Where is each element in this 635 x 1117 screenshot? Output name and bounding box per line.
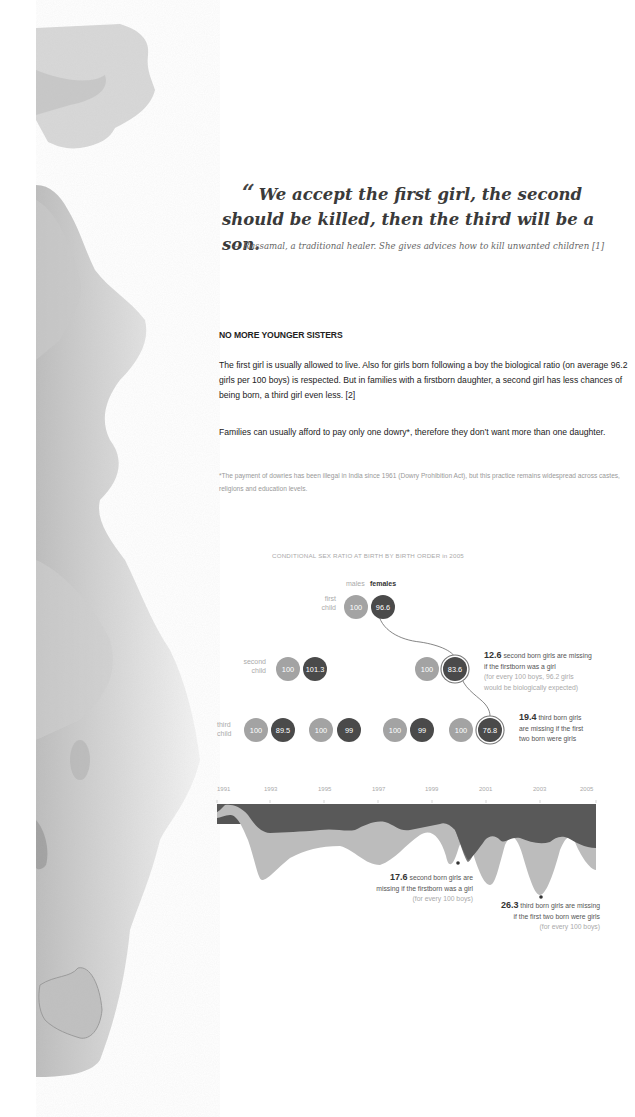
annotation-area-third-born: 26.3 third born girls are missing if the… (460, 900, 600, 933)
area-chart (0, 0, 635, 1117)
annotation-area-second-born: 17.6 second born girls are missing if th… (348, 872, 473, 905)
